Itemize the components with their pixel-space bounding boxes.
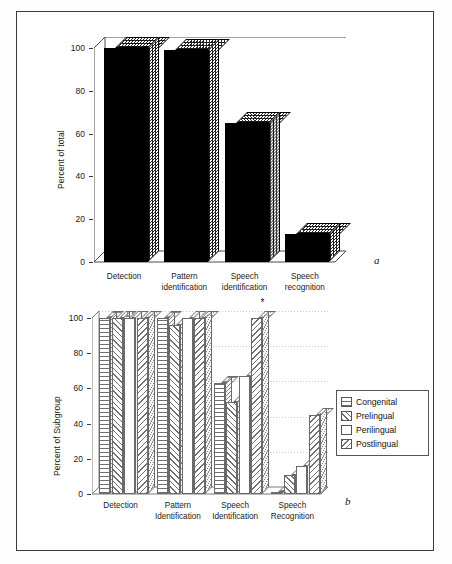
- bar-front-face: [157, 318, 168, 494]
- panel-b-y-tick-mark: [87, 353, 91, 354]
- bar-front-face: [271, 492, 282, 494]
- bar-front-face: [284, 475, 295, 494]
- panel-a-y-tick-label: 60: [61, 130, 85, 138]
- bar-solid: [164, 39, 208, 262]
- bar-side-face: [148, 311, 155, 494]
- bar-front-face: [251, 318, 262, 494]
- bar-front-face: [285, 234, 329, 262]
- panel-b-y-tick-label: 0: [59, 490, 83, 498]
- panel-b: b Percent of Subgroup 020406080100 * Det…: [16, 291, 434, 551]
- bar-front-face: [112, 318, 123, 494]
- bar-front-face: [182, 318, 193, 494]
- diagonal-forward-swatch: [341, 411, 352, 421]
- panel-b-y-tick-mark: [87, 388, 91, 389]
- legend-item: Postlingual: [341, 437, 423, 451]
- panel-a: a Percent of total 020406080100 Detectio…: [16, 11, 434, 291]
- bar-side-face: [269, 112, 280, 262]
- legend-item-label: Congenital: [356, 397, 397, 407]
- bar-hatched: [226, 395, 237, 494]
- panel-a-x-label: Speechrecognition: [263, 272, 347, 293]
- panel-b-y-tick-label: 60: [59, 384, 83, 392]
- panel-b-label: b: [345, 495, 351, 507]
- legend-item-label: Postlingual: [356, 439, 398, 449]
- bar-side-face: [205, 311, 212, 494]
- bar-solid: [285, 223, 329, 262]
- panel-b-y-tick-mark: [87, 318, 91, 319]
- panel-b-x-label: SpeechRecognition: [250, 501, 334, 522]
- bar-front-face: [194, 318, 205, 494]
- bar-hatched: [112, 311, 123, 494]
- bar-front-face: [225, 123, 269, 262]
- panel-b-y-tick-label: 80: [59, 349, 83, 357]
- bar-hatched: [157, 311, 168, 494]
- bar-front-face: [124, 318, 135, 494]
- legend-item: Congenital: [341, 395, 423, 409]
- bar-hatched: [194, 311, 205, 494]
- bar-hatched: [214, 376, 225, 494]
- bar-hatched: [137, 311, 148, 494]
- bar-front-face: [169, 325, 180, 494]
- legend-item-label: Perilingual: [356, 425, 396, 435]
- panel-a-y-tick-label: 20: [61, 215, 85, 223]
- bar-front-face: [164, 50, 208, 262]
- bar-side-face: [320, 408, 327, 494]
- bar-hatched: [182, 311, 193, 494]
- bar-hatched: [169, 318, 180, 494]
- bar-side-face: [148, 37, 159, 262]
- bar-front-face: [226, 402, 237, 494]
- panel-a-y-tick-mark: [89, 262, 93, 263]
- panel-a-label: a: [374, 254, 380, 266]
- legend-item: Prelingual: [341, 409, 423, 423]
- bar-front-face: [309, 415, 320, 494]
- bar-front-face: [99, 318, 110, 494]
- panel-a-y-tick-mark: [89, 91, 93, 92]
- bar-side-face: [208, 39, 219, 262]
- diagonal-back-swatch: [341, 439, 352, 449]
- panel-a-y-tick-label: 40: [61, 172, 85, 180]
- bar-hatched: [271, 485, 282, 494]
- legend-item: Perilingual: [341, 423, 423, 437]
- panel-b-y-axis-title: Percent of Subgroup: [52, 396, 62, 476]
- bar-hatched: [251, 311, 262, 494]
- bar-hatched: [124, 311, 135, 494]
- panel-a-y-tick-mark: [89, 176, 93, 177]
- bar-hatched: [309, 408, 320, 494]
- panel-a-y-tick-mark: [89, 48, 93, 49]
- panel-b-y-tick-label: 100: [59, 314, 83, 322]
- panel-b-y-tick-label: 40: [59, 420, 83, 428]
- bar-front-face: [239, 376, 250, 494]
- bar-front-face: [137, 318, 148, 494]
- blank-swatch: [341, 425, 352, 435]
- bar-hatched: [296, 459, 307, 494]
- legend-item-label: Prelingual: [356, 411, 394, 421]
- significance-asterisk: *: [260, 300, 264, 306]
- panel-a-y-tick-mark: [89, 219, 93, 220]
- bar-front-face: [104, 48, 148, 262]
- panel-b-y-tick-label: 20: [59, 455, 83, 463]
- bar-solid: [104, 37, 148, 262]
- panel-a-y-tick-label: 0: [61, 258, 85, 266]
- horizontal-lines-swatch: [341, 397, 352, 407]
- panel-b-y-tick-mark: [87, 424, 91, 425]
- panel-b-plot-area: *: [92, 311, 328, 494]
- bar-solid: [225, 112, 269, 262]
- panel-a-y-tick-mark: [89, 134, 93, 135]
- bar-front-face: [296, 466, 307, 494]
- panel-a-y-tick-label: 80: [61, 87, 85, 95]
- panel-b-y-tick-mark: [87, 459, 91, 460]
- panel-b-y-tick-mark: [87, 494, 91, 495]
- panel-a-y-tick-label: 100: [61, 44, 85, 52]
- panel-a-plot-area: [94, 37, 346, 262]
- bar-hatched: [99, 311, 110, 494]
- bar-front-face: [214, 383, 225, 494]
- bar-hatched: [239, 369, 250, 494]
- bar-hatched: [284, 468, 295, 494]
- chart-legend: CongenitalPrelingualPerilingualPostlingu…: [336, 390, 429, 456]
- figure-root: a Percent of total 020406080100 Detectio…: [0, 0, 452, 564]
- bar-side-face: [262, 311, 269, 494]
